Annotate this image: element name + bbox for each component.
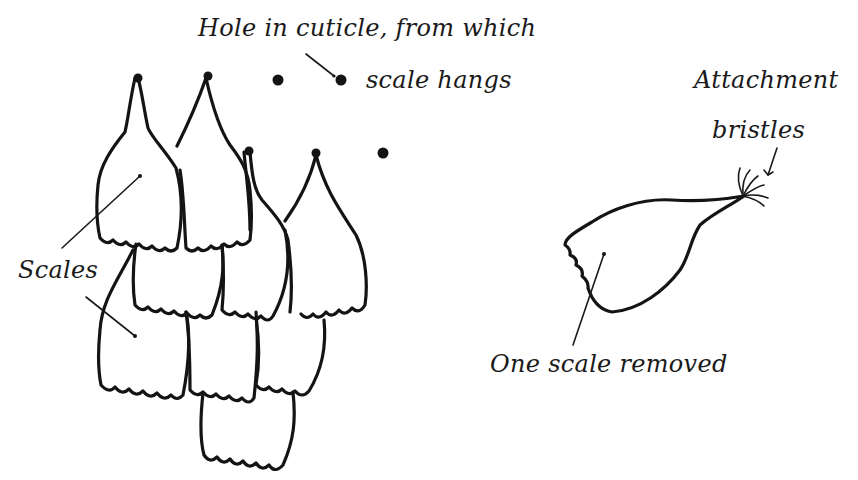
hole-dot (134, 74, 143, 83)
scale-row3-left (99, 250, 189, 399)
removed-scale (565, 196, 744, 312)
scale-top-right (177, 78, 252, 251)
label-scales: Scales (18, 256, 98, 284)
scale-row2-middle (222, 230, 288, 320)
label-attachment-line1: Attachment (694, 66, 838, 94)
scales-pointer-lower (86, 297, 135, 336)
hole-pointer (306, 54, 334, 76)
label-one-scale-removed: One scale removed (490, 350, 728, 378)
scale-top-left (97, 78, 181, 251)
label-attachment-line2: bristles (712, 116, 805, 144)
empty-hole-dot (378, 148, 389, 159)
label-hole-line1: Hole in cuticle, from which (198, 14, 536, 42)
holes (134, 72, 389, 159)
empty-hole-dot (336, 75, 347, 86)
bristles-pointer (768, 148, 777, 175)
label-hole-line2: scale hangs (366, 66, 512, 94)
scale-row3-middle (186, 312, 257, 402)
scale-bottom-center (201, 392, 294, 470)
scale-row3-right (256, 318, 325, 395)
attachment-bristles (738, 168, 768, 206)
hole-dot (245, 147, 254, 156)
scale-row2-left (133, 244, 223, 318)
hole-dot (312, 149, 321, 158)
hole-dot (204, 72, 213, 81)
scale-row2-right (285, 155, 366, 318)
empty-hole-dot (273, 75, 284, 86)
